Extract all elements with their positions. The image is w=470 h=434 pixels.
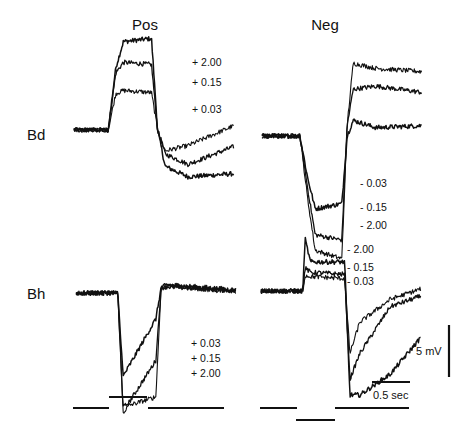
row-label-bh: Bh bbox=[27, 285, 45, 302]
trace-label: - 0.15 bbox=[347, 261, 374, 273]
column-title-neg: Neg bbox=[311, 16, 339, 33]
trace-label: + 0.15 bbox=[192, 76, 222, 88]
trace-label: + 0.03 bbox=[192, 103, 222, 115]
trace-label: + 0.03 bbox=[191, 337, 221, 349]
trace-bd-neg-0 bbox=[262, 119, 422, 210]
time-scale-label: 0.5 sec bbox=[373, 389, 409, 401]
row-label-bd: Bd bbox=[27, 126, 45, 143]
voltage-scale-label: 5 mV bbox=[416, 345, 442, 357]
trace-label: + 0.15 bbox=[191, 352, 221, 364]
trace-bh-neg-0 bbox=[261, 238, 421, 398]
trace-bd-pos-2 bbox=[74, 89, 234, 151]
trace-label: - 2.00 bbox=[360, 219, 387, 231]
trace-label: - 2.00 bbox=[347, 243, 374, 255]
trace-bd-neg-1 bbox=[262, 85, 422, 242]
figure: Pos Neg Bd Bh + 2.00 + 0.15 + 0.03 - 0.0… bbox=[0, 0, 470, 434]
trace-label: - 0.03 bbox=[360, 177, 387, 189]
trace-label: - 0.03 bbox=[347, 275, 374, 287]
column-title-pos: Pos bbox=[132, 16, 158, 33]
trace-bh-neg-2 bbox=[261, 275, 421, 354]
trace-label: + 2.00 bbox=[192, 56, 222, 68]
trace-label: + 2.00 bbox=[191, 367, 221, 379]
trace-label: - 0.15 bbox=[360, 201, 387, 213]
